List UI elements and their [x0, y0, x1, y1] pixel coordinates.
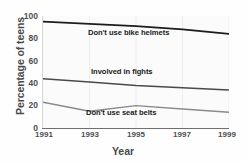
y-tick-label: 80 [16, 34, 38, 43]
x-axis-line [42, 128, 229, 129]
x-tick-label: 1993 [70, 130, 110, 140]
x-axis-title: Year [0, 145, 246, 157]
y-tick-label: 60 [16, 57, 38, 66]
x-tick-label: 1991 [24, 130, 64, 140]
series-label: Don't use bike helmets [88, 28, 169, 37]
x-axis-tick-labels: 19911993199519971999 [0, 130, 246, 142]
x-tick-label: 1999 [207, 130, 246, 140]
line-chart: Percentage of teens 100806040200 1991199… [0, 0, 246, 164]
y-tick-label: 100 [16, 12, 38, 21]
series-label: Don't use seat belts [86, 108, 156, 117]
y-tick-label: 20 [16, 101, 38, 110]
x-tick-label: 1997 [162, 130, 202, 140]
y-tick-label: 40 [16, 79, 38, 88]
series-label: Involved in fights [91, 67, 153, 76]
x-tick-label: 1995 [116, 130, 156, 140]
